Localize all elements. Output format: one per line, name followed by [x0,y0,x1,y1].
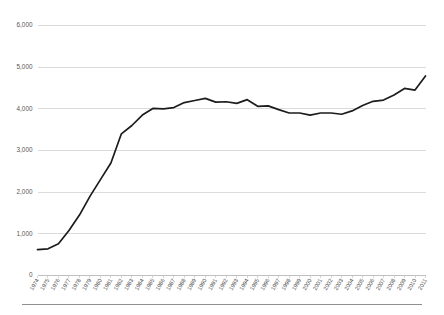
xtick-label-1976: 1976 [50,278,61,292]
xtick-label-1996: 1996 [259,278,270,292]
line-chart-figure: 01,0002,0003,0004,0005,0006,000197419751… [0,0,444,315]
xtick-label-2005: 2005 [354,278,365,292]
xtick-label-1975: 1975 [39,278,50,292]
xtick-label-2008: 2008 [385,278,396,292]
xtick-label-1983: 1983 [123,278,134,292]
xtick-label-1999: 1999 [291,278,302,292]
ytick-label-1000: 1,000 [17,230,33,237]
xtick-label-1979: 1979 [81,278,92,292]
xtick-label-1977: 1977 [60,278,71,292]
xtick-label-1990: 1990 [196,278,207,292]
xtick-label-2009: 2009 [396,278,407,292]
xtick-label-1989: 1989 [186,278,197,292]
xtick-label-1995: 1995 [249,278,260,292]
ytick-label-6000: 6,000 [17,21,33,28]
xtick-label-1980: 1980 [91,278,102,292]
xtick-label-1991: 1991 [207,278,218,292]
xtick-label-1997: 1997 [270,278,281,292]
xtick-label-1974: 1974 [29,278,40,292]
xtick-label-1981: 1981 [102,278,113,292]
xtick-label-1987: 1987 [165,278,176,292]
ytick-label-3000: 3,000 [17,146,33,153]
ytick-label-5000: 5,000 [17,63,33,70]
xtick-label-2010: 2010 [406,278,417,292]
xtick-label-2004: 2004 [343,278,354,292]
xtick-label-1993: 1993 [228,278,239,292]
xtick-label-1978: 1978 [70,278,81,292]
xtick-label-2001: 2001 [312,278,323,292]
xtick-label-1985: 1985 [144,278,155,292]
xtick-label-1992: 1992 [217,278,228,292]
xtick-label-2011: 2011 [417,278,428,291]
footer-divider [22,304,422,305]
xtick-label-2002: 2002 [322,278,333,292]
ytick-label-0: 0 [29,271,33,278]
data-series-line [38,76,426,250]
xtick-label-2007: 2007 [375,278,386,292]
xtick-label-1986: 1986 [154,278,165,292]
xtick-label-2006: 2006 [364,278,375,292]
xtick-label-1988: 1988 [175,278,186,292]
ytick-label-2000: 2,000 [17,188,33,195]
xtick-label-1984: 1984 [133,278,144,292]
xtick-label-1982: 1982 [112,278,123,292]
xtick-label-2000: 2000 [301,278,312,292]
ytick-label-4000: 4,000 [17,105,33,112]
xtick-label-1994: 1994 [238,278,249,292]
xtick-label-2003: 2003 [333,278,344,292]
chart-canvas: 01,0002,0003,0004,0005,0006,000197419751… [0,0,444,315]
xtick-label-1998: 1998 [280,278,291,292]
